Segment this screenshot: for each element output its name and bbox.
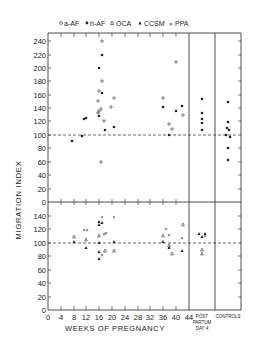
lower-crosses: ×××× ×××× ××× (83, 214, 207, 258)
svg-text:40: 40 (38, 279, 46, 288)
svg-text:36: 36 (159, 313, 167, 322)
svg-text:40: 40 (38, 171, 46, 180)
svg-text:12: 12 (82, 313, 90, 322)
post-partum-label-2: PARTUM (193, 320, 212, 325)
legend-ccsm: CCSM (144, 20, 165, 27)
svg-text:×: × (86, 227, 89, 233)
svg-text:200: 200 (33, 64, 46, 73)
svg-text:120: 120 (33, 117, 46, 126)
svg-text:24: 24 (121, 313, 129, 322)
svg-text:80: 80 (38, 144, 46, 153)
x-ticks (61, 33, 176, 310)
svg-text:20: 20 (38, 293, 46, 302)
svg-text:×: × (168, 232, 171, 238)
svg-text:100: 100 (33, 131, 46, 140)
lower-filled-triangles (73, 220, 207, 260)
svg-text:60: 60 (38, 158, 46, 167)
svg-text:×: × (101, 214, 104, 220)
svg-text:160: 160 (33, 91, 46, 100)
svg-text:×: × (101, 252, 104, 258)
y-ticks (48, 41, 241, 297)
svg-text:180: 180 (33, 77, 46, 86)
post-partum-label-3: DAY 4 (196, 326, 209, 331)
svg-text:120: 120 (33, 225, 46, 234)
legend: a-AF h-AF OCA CCSM × PPA (60, 20, 189, 27)
chart: a-AF h-AF OCA CCSM × PPA (0, 0, 256, 350)
svg-text:20: 20 (38, 185, 46, 194)
legend-ppa: PPA (175, 20, 189, 27)
svg-text:60: 60 (38, 266, 46, 275)
y-axis-label: MIGRATION INDEX (14, 161, 23, 240)
svg-text:16: 16 (95, 313, 103, 322)
svg-text:0: 0 (46, 313, 50, 322)
svg-text:32: 32 (146, 313, 154, 322)
lower-open-triangles (73, 223, 204, 255)
svg-text:8: 8 (72, 313, 76, 322)
svg-text:×: × (113, 214, 116, 220)
svg-text:×: × (105, 230, 108, 236)
legend-aaf: a-AF (64, 20, 79, 27)
svg-text:140: 140 (33, 104, 46, 113)
legend-oca: OCA (116, 20, 132, 27)
svg-text:×: × (204, 233, 207, 239)
x-axis-label: WEEKS OF PREGNANCY (65, 324, 165, 333)
svg-text:×: × (181, 235, 184, 241)
svg-text:240: 240 (33, 37, 46, 46)
upper-open-circles (97, 40, 184, 163)
svg-text:220: 220 (33, 51, 46, 60)
x-tick-labels: 04812 16202428 32364044 (46, 313, 193, 322)
svg-text:×: × (169, 21, 173, 27)
svg-text:80: 80 (38, 252, 46, 261)
svg-text:28: 28 (134, 313, 142, 322)
legend-haf: h-AF (90, 20, 105, 27)
svg-text:4: 4 (59, 313, 63, 322)
svg-text:100: 100 (33, 239, 46, 248)
upper-filled-circles (71, 54, 232, 162)
post-partum-label-1: POST (196, 314, 209, 319)
frame (48, 33, 241, 310)
controls-label: CONTROLS (215, 314, 240, 319)
reference-lines (48, 135, 241, 243)
svg-text:20: 20 (108, 313, 116, 322)
y-tick-labels: 240220200180 160140120100 806040200 1401… (33, 37, 46, 315)
svg-text:40: 40 (172, 313, 180, 322)
svg-text:140: 140 (33, 212, 46, 221)
svg-text:0: 0 (42, 198, 46, 207)
